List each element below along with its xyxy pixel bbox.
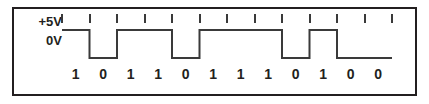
axis-label-low: 0V xyxy=(18,33,62,49)
bit-value: 1 xyxy=(148,64,168,84)
bit-boundary-tick xyxy=(61,14,63,23)
bit-boundary-tick xyxy=(144,14,146,23)
bit-boundary-tick xyxy=(309,14,311,23)
bit-value: 1 xyxy=(231,64,251,84)
bit-boundary-tick xyxy=(171,14,173,23)
bit-boundary-tick-row xyxy=(58,12,414,24)
bit-boundary-tick xyxy=(336,14,338,23)
waveform-diagram: +5V 0V 101101110100 xyxy=(0,0,429,104)
bit-value-row: 101101110100 xyxy=(58,64,414,86)
bit-boundary-tick xyxy=(364,14,366,23)
axis-label-high: +5V xyxy=(18,14,62,30)
bit-value: 0 xyxy=(341,64,361,84)
bit-boundary-tick xyxy=(226,14,228,23)
bit-value: 1 xyxy=(121,64,141,84)
waveform-plot-area: 101101110100 xyxy=(58,12,414,90)
bit-value: 1 xyxy=(258,64,278,84)
bit-value: 0 xyxy=(176,64,196,84)
bit-boundary-tick xyxy=(116,14,118,23)
bit-value: 1 xyxy=(313,64,333,84)
bit-value: 0 xyxy=(286,64,306,84)
bit-boundary-tick xyxy=(391,14,393,23)
waveform-trace xyxy=(58,26,414,62)
bit-boundary-tick xyxy=(281,14,283,23)
bit-boundary-tick xyxy=(254,14,256,23)
bit-value: 0 xyxy=(93,64,113,84)
bit-value: 1 xyxy=(66,64,86,84)
bit-value: 0 xyxy=(368,64,388,84)
bit-boundary-tick xyxy=(199,14,201,23)
bit-value: 1 xyxy=(203,64,223,84)
voltage-axis-labels: +5V 0V xyxy=(18,14,62,56)
bit-boundary-tick xyxy=(89,14,91,23)
